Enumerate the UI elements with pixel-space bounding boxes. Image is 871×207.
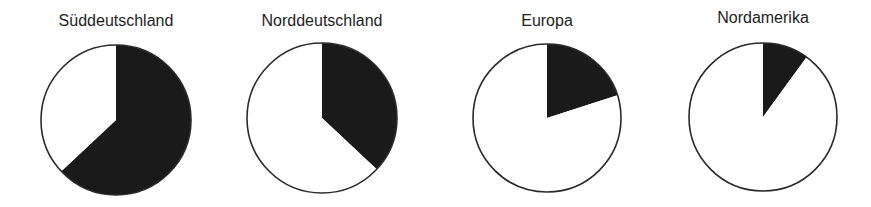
pie-chart-sueddeutschland: Süddeutschland bbox=[16, 0, 216, 207]
pie-graphic bbox=[222, 0, 422, 207]
pie-chart-norddeutschland: Norddeutschland bbox=[222, 0, 422, 207]
pie-chart-nordamerika: Nordamerika bbox=[663, 0, 863, 207]
pie-chart-europa: Europa bbox=[443, 0, 643, 207]
pie-graphic bbox=[443, 0, 643, 207]
pie-graphic bbox=[16, 0, 216, 207]
pie-graphic bbox=[663, 0, 863, 207]
